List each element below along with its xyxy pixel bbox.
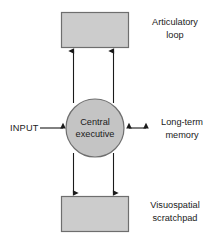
diagram-canvas: Central executive INPUT Articulatory loo… [0,0,218,244]
articulatory-loop-label-line2: loop [166,30,183,40]
visuospatial-scratchpad-label-line2: scratchpad [153,213,198,223]
visuospatial-scratchpad-box [62,197,129,232]
visuospatial-scratchpad-label-line1: Visuospatial [150,200,199,210]
long-term-memory-label-line1: Long-term [161,117,203,127]
input-label: INPUT [10,123,39,133]
central-executive-circle [66,99,124,157]
working-memory-diagram: Central executive INPUT Articulatory loo… [0,0,218,244]
central-executive-label-line1: Central [80,117,110,127]
central-executive-label-line2: executive [76,129,115,139]
articulatory-loop-label-line1: Articulatory [152,17,198,27]
long-term-memory-label-line2: memory [165,130,199,140]
articulatory-loop-box [62,13,129,48]
